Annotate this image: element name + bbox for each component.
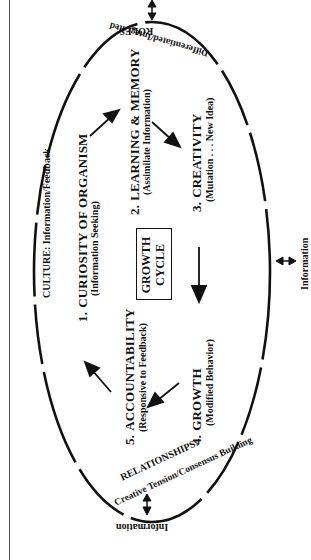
step-4-title: GROWTH bbox=[189, 368, 204, 431]
step-3-number: 3. bbox=[189, 202, 204, 212]
culture-label: CULTURE: Information/Feedback bbox=[42, 148, 52, 298]
step-1-number: 1. bbox=[75, 312, 90, 322]
step-5-number: 5. bbox=[122, 435, 137, 445]
step-2: 2. LEARNING & MEMORY bbox=[126, 48, 142, 215]
double-arrow-top-icon bbox=[148, 0, 156, 20]
center-label-line1: GROWTH bbox=[139, 233, 153, 297]
step-3-subtitle: (Mutation . . . New Idea) bbox=[205, 98, 215, 202]
step-4: 4. GROWTH bbox=[188, 368, 204, 445]
double-arrow-right-icon bbox=[276, 257, 296, 265]
step-4-subtitle: (Modified Behavior) bbox=[205, 339, 215, 426]
step-5: 5. ACCOUNTABILITY bbox=[121, 308, 137, 445]
step-5-title: ACCOUNTABILITY bbox=[122, 308, 137, 430]
center-label-line2: CYCLE bbox=[153, 233, 167, 297]
step-2-title: LEARNING & MEMORY bbox=[127, 48, 142, 200]
step-1-title: CURIOSITY OF ORGANISM bbox=[75, 133, 90, 307]
step-5-subtitle: (Responsive to Feedback) bbox=[138, 323, 148, 432]
growth-cycle-box: GROWTH CYCLE bbox=[136, 228, 172, 300]
information-bottom-label: Information bbox=[116, 522, 168, 532]
step-2-number: 2. bbox=[127, 205, 142, 215]
double-arrow-bottom-icon bbox=[143, 494, 151, 515]
step-1: 1. CURIOSITY OF ORGANISM bbox=[74, 133, 90, 322]
step-3: 3. CREATIVITY bbox=[188, 114, 204, 212]
growth-cycle-label: GROWTH CYCLE bbox=[139, 233, 167, 297]
step-2-subtitle: (Assimilate Information) bbox=[142, 89, 152, 195]
information-right-label: Information bbox=[300, 238, 310, 290]
step-4-number: 4. bbox=[189, 435, 204, 445]
step-1-subtitle: (Information Seeking) bbox=[90, 201, 100, 296]
step-3-title: CREATIVITY bbox=[189, 114, 204, 198]
